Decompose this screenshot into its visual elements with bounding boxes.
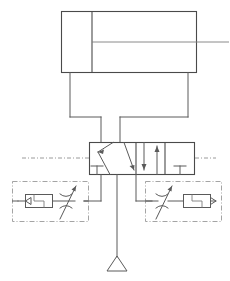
restrictor-left-adjust-line bbox=[60, 186, 76, 219]
restrictor-right-arc-top bbox=[156, 194, 168, 197]
check-valve-left-direction-arrow-icon bbox=[26, 198, 32, 205]
cross-arrow-1-line bbox=[98, 143, 113, 153]
cross-arrow-1-tail bbox=[98, 152, 110, 175]
directional-control-valve[interactable] bbox=[90, 143, 195, 175]
restrictor-right-adjust-line bbox=[156, 186, 172, 219]
cylinder-to-valve-piping bbox=[70, 117, 188, 142]
exhaust-port bbox=[107, 175, 127, 272]
double-acting-cylinder bbox=[62, 12, 230, 118]
exhaust-triangle-icon bbox=[107, 256, 127, 271]
circuit-diagram bbox=[0, 0, 229, 281]
flow-control-valve-right[interactable] bbox=[146, 182, 222, 222]
restrictor-left-arc-top bbox=[60, 194, 72, 197]
parallel-arrow-down-head bbox=[142, 164, 147, 170]
flow-control-valve-left[interactable] bbox=[13, 182, 89, 222]
valve-position-blocked bbox=[174, 166, 186, 175]
valve-to-flowcontrol-piping bbox=[84, 175, 152, 202]
circuit-canvas bbox=[0, 0, 229, 281]
cross-arrow-2-head bbox=[130, 165, 135, 170]
parallel-arrow-up-head bbox=[155, 146, 160, 152]
valve-position-crossed bbox=[91, 143, 135, 175]
valve-position-parallel bbox=[142, 143, 160, 175]
